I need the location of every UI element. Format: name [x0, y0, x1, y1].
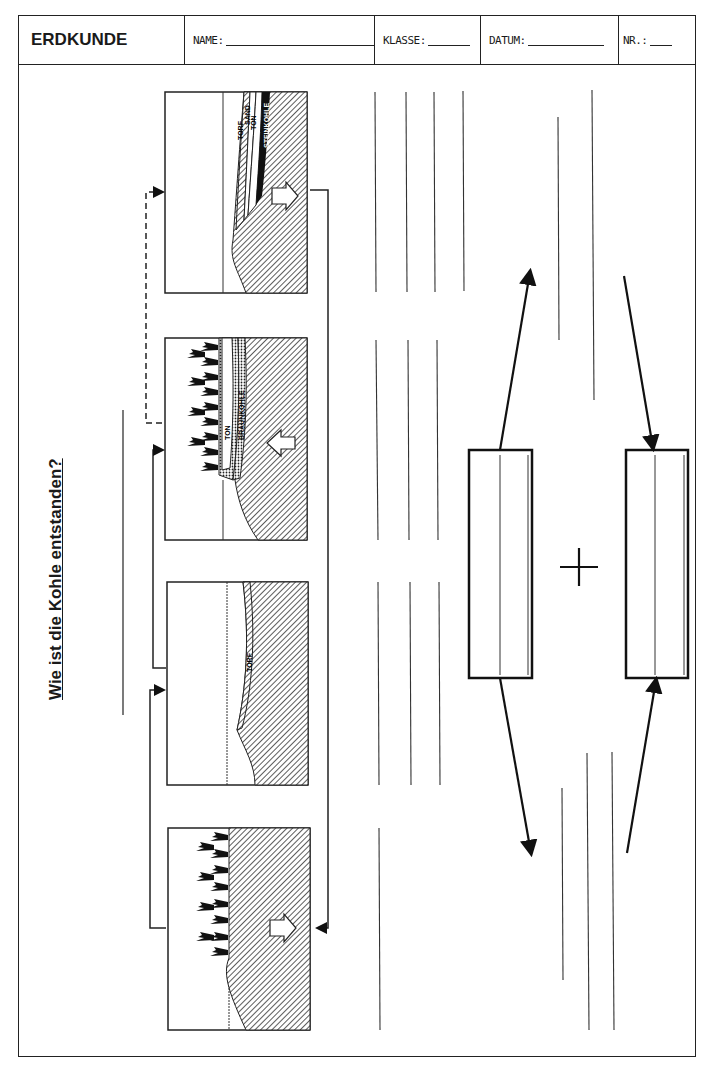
answer-lines-a[interactable]	[375, 91, 464, 1030]
panel-peat: TORF	[167, 582, 308, 785]
flow-connectors	[146, 190, 328, 928]
layer-label-torf: TORF	[246, 652, 253, 672]
panel-forest	[168, 828, 310, 1030]
layer-label-braunkohle: BRAUNKOHLE	[238, 390, 245, 440]
diagram-canvas: TORF SAND TON STEINKOHLE TON BRAUNKOHLE …	[0, 0, 710, 1066]
layer-label-torf: TORF	[237, 120, 244, 140]
formula-right-box[interactable]	[626, 450, 688, 678]
layer-label-steinkohle: STEINKOHLE	[263, 103, 270, 148]
plus-operator-icon	[560, 548, 598, 586]
panel-lignite: TON BRAUNKOHLE	[165, 338, 307, 540]
layer-label-ton: TON	[224, 425, 231, 440]
layer-label-ton: TON	[250, 115, 257, 130]
answer-lines-b[interactable]	[558, 90, 614, 1030]
panel-hard-coal: TORF SAND TON STEINKOHLE	[165, 92, 307, 293]
formula-left-box[interactable]	[469, 450, 532, 678]
